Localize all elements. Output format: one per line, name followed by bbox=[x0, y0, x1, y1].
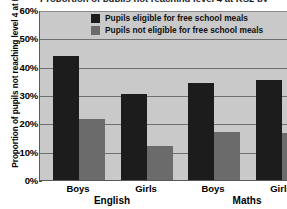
chart-title: Proportion of pupils not reaching level … bbox=[40, 0, 270, 2]
x-axis-group-labels: EnglishMaths bbox=[39, 195, 287, 209]
bar-english-boys-eligible bbox=[53, 56, 79, 180]
bar-english-girls-not-eligible bbox=[147, 146, 173, 180]
bar-english-boys-not-eligible bbox=[79, 119, 105, 180]
legend-swatch-not-eligible-icon bbox=[91, 26, 100, 35]
x-label-maths-girls: Girls bbox=[251, 183, 287, 194]
y-tick-label-30: 30% bbox=[10, 91, 38, 101]
y-tick-label-10: 10% bbox=[10, 148, 38, 158]
legend-swatch-eligible-icon bbox=[91, 14, 100, 23]
y-tick-label-20: 20% bbox=[10, 119, 38, 129]
y-tick-label-0: 0% bbox=[10, 176, 38, 186]
y-tick-label-60: 60% bbox=[10, 6, 38, 16]
legend-item-not-eligible: Pupils not eligible for free school meal… bbox=[91, 24, 263, 36]
y-tick-mark-0 bbox=[39, 181, 42, 182]
x-label-english-boys: Boys bbox=[48, 183, 108, 194]
bar-english-girls-eligible bbox=[121, 94, 147, 180]
legend-label-not-eligible: Pupils not eligible for free school meal… bbox=[105, 26, 263, 35]
bar-maths-boys-eligible bbox=[188, 83, 214, 180]
gridline-50 bbox=[40, 39, 287, 40]
x-label-maths-boys: Boys bbox=[183, 183, 243, 194]
legend-item-eligible: Pupils eligible for free school meals bbox=[91, 12, 263, 24]
bar-maths-girls-not-eligible bbox=[282, 133, 287, 180]
bar-maths-girls-eligible bbox=[256, 80, 282, 180]
y-axis-tick-labels: 60%50%40%30%20%10%0% bbox=[10, 0, 38, 209]
x-label-english-girls: Girls bbox=[116, 183, 176, 194]
y-tick-label-40: 40% bbox=[10, 63, 38, 73]
chart-legend: Pupils eligible for free school meals Pu… bbox=[89, 10, 266, 38]
x-group-label-english: English bbox=[72, 195, 152, 207]
x-group-label-maths: Maths bbox=[207, 195, 287, 207]
bar-chart: Proportion of pupils not reaching level … bbox=[0, 0, 287, 209]
y-tick-label-50: 50% bbox=[10, 34, 38, 44]
legend-label-eligible: Pupils eligible for free school meals bbox=[105, 14, 248, 23]
bar-maths-boys-not-eligible bbox=[214, 132, 240, 180]
